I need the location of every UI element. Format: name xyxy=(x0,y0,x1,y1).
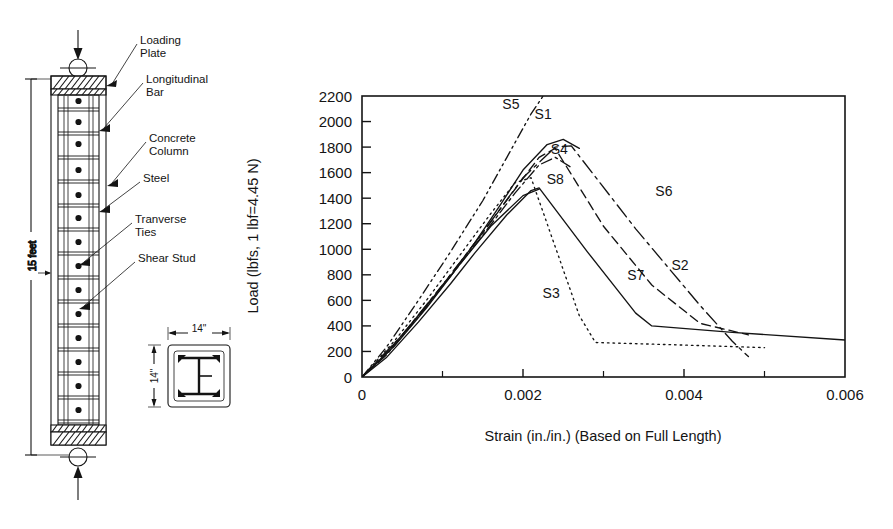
y-tick-label: 1200 xyxy=(319,215,352,232)
y-tick-label: 400 xyxy=(327,317,352,334)
series-label-s8: S8 xyxy=(547,171,564,187)
series-label-s2: S2 xyxy=(671,257,688,273)
series-label-s4: S4 xyxy=(551,141,568,157)
x-axis-title: Strain (in./in.) (Based on Full Length) xyxy=(485,428,722,444)
y-axis-ticks xyxy=(362,122,371,352)
y-axis-tick-labels: 0200400600800100012001400160018002000220… xyxy=(319,88,352,386)
shear-studs xyxy=(75,98,81,413)
y-tick-label: 800 xyxy=(327,266,352,283)
callout-tranverse-ties-line2: Ties xyxy=(135,226,157,238)
callout-longitudinal-bar-line2: Bar xyxy=(146,86,164,98)
callout-concrete-column-line2: Column xyxy=(149,145,189,157)
series-curve-s3 xyxy=(362,178,765,377)
series-labels: S1S2S3S4S5S6S7S8 xyxy=(502,96,688,300)
x-tick-label: 0.006 xyxy=(826,386,864,403)
section-width-label: 14" xyxy=(192,323,207,334)
series-label-s3: S3 xyxy=(543,285,560,301)
y-axis-title: Load (lbfs, 1 lbf=4.45 N) xyxy=(245,158,261,313)
callout-concrete-column-line1: Concrete xyxy=(149,132,196,144)
callout-shear-stud-line1: Shear Stud xyxy=(138,252,196,264)
x-tick-label: 0.004 xyxy=(665,386,703,403)
callout-loading-plate-line2: Plate xyxy=(140,47,166,59)
column-diagram-panel: 15 feet xyxy=(0,0,262,529)
concrete-column-outline xyxy=(51,76,106,445)
y-tick-label: 200 xyxy=(327,343,352,360)
loading-plate-top xyxy=(51,76,106,95)
top-load-arrow xyxy=(74,30,83,60)
series-curve-s5 xyxy=(362,96,543,377)
y-tick-label: 1800 xyxy=(319,139,352,156)
y-tick-label: 1600 xyxy=(319,164,352,181)
callout-loading-plate-line1: Loading xyxy=(140,34,181,46)
load-strain-chart-panel: 0200400600800100012001400160018002000220… xyxy=(240,60,893,460)
series-label-s6: S6 xyxy=(655,183,672,199)
figure-root: 15 feet xyxy=(0,0,893,529)
section-location-arrow xyxy=(38,271,51,276)
series-label-s1: S1 xyxy=(535,106,552,122)
callout-tranverse-ties-line1: Tranverse xyxy=(135,213,186,225)
y-tick-label: 2000 xyxy=(319,113,352,130)
series-curves xyxy=(362,96,845,377)
x-tick-label: 0 xyxy=(358,386,366,403)
series-curve-s7 xyxy=(362,188,845,377)
y-tick-label: 2200 xyxy=(319,88,352,105)
y-tick-label: 0 xyxy=(344,369,352,386)
callout-labels: Loading Plate Longitudinal Bar Concrete … xyxy=(135,34,208,264)
bottom-load-arrow xyxy=(74,466,83,500)
x-axis-tick-labels: 00.0020.0040.006 xyxy=(358,386,864,403)
column-diagram-svg: 15 feet xyxy=(0,0,262,529)
x-tick-label: 0.002 xyxy=(504,386,542,403)
y-tick-label: 1400 xyxy=(319,190,352,207)
x-axis-ticks xyxy=(443,369,765,377)
y-tick-label: 1000 xyxy=(319,241,352,258)
series-label-s7: S7 xyxy=(627,267,644,283)
load-strain-chart-svg: 0200400600800100012001400160018002000220… xyxy=(240,60,893,460)
callout-longitudinal-bar-line1: Longitudinal xyxy=(146,73,208,85)
loading-plate-bottom xyxy=(51,425,106,445)
callout-steel-line1: Steel xyxy=(143,172,169,184)
section-height-label: 14" xyxy=(149,368,160,383)
y-tick-label: 600 xyxy=(327,292,352,309)
height-dimension-label: 15 feet xyxy=(27,240,38,271)
series-label-s5: S5 xyxy=(502,96,519,112)
